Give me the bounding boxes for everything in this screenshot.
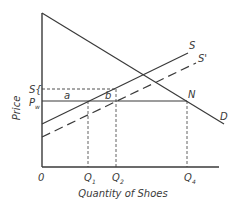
tariff-diagram: Price S{ Pw a b S S' D N 0 Q1 Q2 Q4 Quan… <box>0 0 241 210</box>
price-s-label: S{ <box>29 84 42 95</box>
supply-shifted-label: S' <box>198 53 207 64</box>
demand-label: D <box>220 111 228 122</box>
area-b-label: b <box>105 90 111 101</box>
area-a-label: a <box>64 90 70 101</box>
supply-label: S <box>189 40 196 51</box>
origin-label: 0 <box>38 172 44 183</box>
q2-label: Q2 <box>112 172 124 185</box>
price-pw-label: Pw <box>29 97 40 110</box>
q1-label: Q1 <box>84 172 96 185</box>
x-axis-label: Quantity of Shoes <box>78 188 167 199</box>
q4-label: Q4 <box>184 172 196 185</box>
point-n-label: N <box>188 89 196 100</box>
demand-curve <box>42 13 224 124</box>
y-axis-label: Price <box>11 96 22 121</box>
